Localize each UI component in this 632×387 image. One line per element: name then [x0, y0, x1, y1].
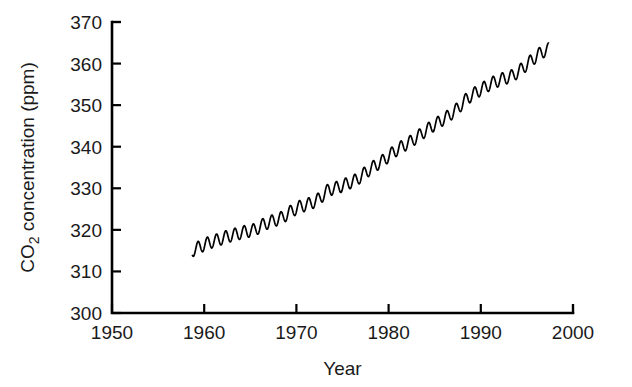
y-title-post: concentration (ppm) — [17, 62, 38, 236]
y-title-pre: CO — [17, 244, 38, 273]
y-tick-label-350: 350 — [70, 95, 102, 116]
y-tick-label-340: 340 — [70, 137, 102, 158]
y-axis-title: CO2 concentration (ppm) — [17, 62, 42, 273]
x-tick-label-1980: 1980 — [367, 322, 409, 343]
x-tick-label-1950: 1950 — [91, 322, 133, 343]
y-tick-label-360: 360 — [70, 54, 102, 75]
y-axis-title-group: CO2 concentration (ppm) — [17, 62, 42, 273]
axis-spines — [112, 22, 573, 313]
x-tick-label-1960: 1960 — [183, 322, 225, 343]
y-tick-label-320: 320 — [70, 220, 102, 241]
co2-concentration-chart: 300310320330340350360370 195019601970198… — [0, 0, 632, 387]
x-tick-label-1970: 1970 — [275, 322, 317, 343]
x-axis-title: Year — [323, 358, 362, 379]
y-axis: 300310320330340350360370 — [70, 12, 121, 324]
y-title-subscript: 2 — [26, 236, 42, 244]
y-tick-label-300: 300 — [70, 303, 102, 324]
chart-canvas: 300310320330340350360370 195019601970198… — [0, 0, 632, 387]
x-tick-label-2000: 2000 — [552, 322, 594, 343]
axis-spine-path — [112, 22, 573, 313]
co2-series-line — [192, 43, 549, 256]
x-axis: 195019601970198019902000 — [91, 304, 594, 343]
x-tick-label-1990: 1990 — [460, 322, 502, 343]
y-tick-label-370: 370 — [70, 12, 102, 33]
y-tick-label-330: 330 — [70, 178, 102, 199]
data-series — [192, 43, 549, 256]
y-tick-label-310: 310 — [70, 261, 102, 282]
